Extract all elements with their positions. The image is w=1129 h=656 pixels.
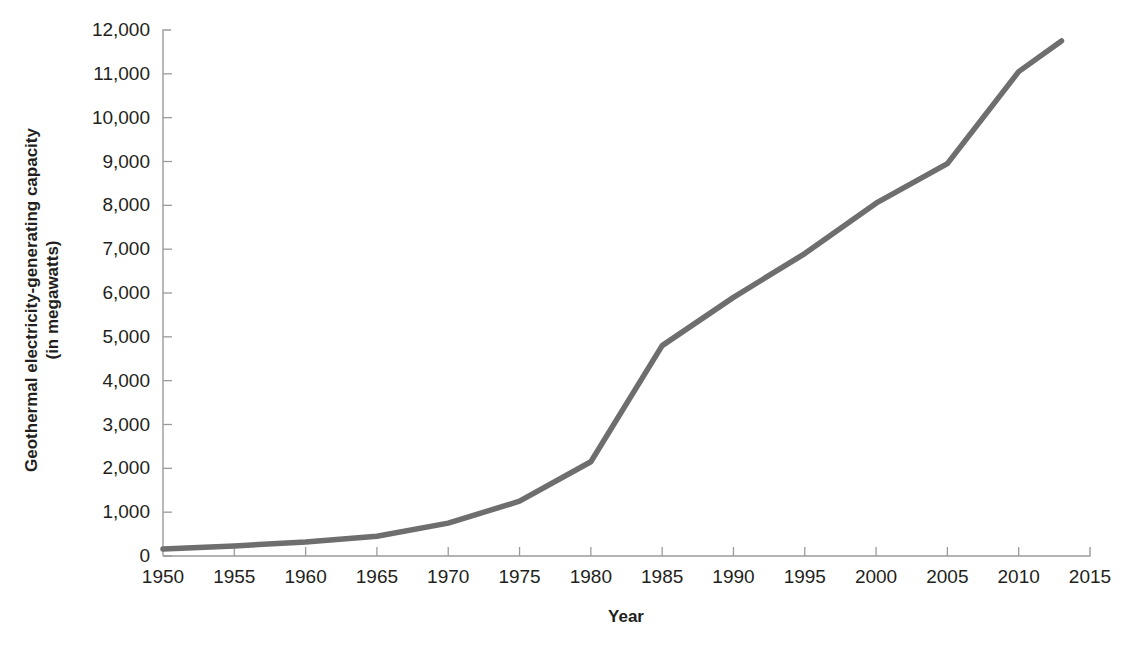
y-axis-title-line-2: (in megawatts) xyxy=(43,240,62,359)
y-tick-label: 4,000 xyxy=(102,370,150,391)
x-tick-label: 1985 xyxy=(641,566,683,587)
y-tick-label: 5,000 xyxy=(102,326,150,347)
x-tick-label: 1950 xyxy=(142,566,184,587)
x-tick-label: 1975 xyxy=(498,566,540,587)
x-tick-label: 2005 xyxy=(926,566,968,587)
x-tick-label: 1955 xyxy=(213,566,255,587)
x-axis-tick-labels: 1950195519601965197019751980198519901995… xyxy=(142,566,1111,587)
line-chart-canvas: 01,0002,0003,0004,0005,0006,0007,0008,00… xyxy=(0,0,1129,656)
y-tick-label: 0 xyxy=(139,545,150,566)
y-tick-label: 12,000 xyxy=(92,19,150,40)
x-tick-label: 1965 xyxy=(356,566,398,587)
x-tick-label: 1980 xyxy=(570,566,612,587)
x-axis-line xyxy=(163,547,1090,556)
x-tick-label: 2000 xyxy=(855,566,897,587)
y-tick-label: 3,000 xyxy=(102,414,150,435)
y-tick-label: 9,000 xyxy=(102,151,150,172)
y-axis-tick-marks xyxy=(163,74,172,556)
data-series-line xyxy=(163,41,1061,549)
x-axis-tick-marks xyxy=(234,547,1018,556)
y-tick-label: 7,000 xyxy=(102,238,150,259)
y-axis-tick-labels: 01,0002,0003,0004,0005,0006,0007,0008,00… xyxy=(92,19,150,566)
x-tick-label: 1990 xyxy=(712,566,754,587)
x-tick-label: 1970 xyxy=(427,566,469,587)
y-tick-label: 2,000 xyxy=(102,457,150,478)
x-tick-label: 1995 xyxy=(784,566,826,587)
x-tick-label: 2015 xyxy=(1069,566,1111,587)
y-tick-label: 10,000 xyxy=(92,107,150,128)
y-axis-title: Geothermal electricity-generating capaci… xyxy=(22,128,62,472)
x-axis-title: Year xyxy=(608,607,644,626)
x-tick-label: 1960 xyxy=(284,566,326,587)
y-tick-label: 6,000 xyxy=(102,282,150,303)
x-tick-label: 2010 xyxy=(998,566,1040,587)
y-tick-label: 1,000 xyxy=(102,501,150,522)
y-axis-title-line-1: Geothermal electricity-generating capaci… xyxy=(22,128,41,472)
chart-figure: 01,0002,0003,0004,0005,0006,0007,0008,00… xyxy=(0,0,1129,656)
y-tick-label: 8,000 xyxy=(102,194,150,215)
y-tick-label: 11,000 xyxy=(93,63,150,84)
